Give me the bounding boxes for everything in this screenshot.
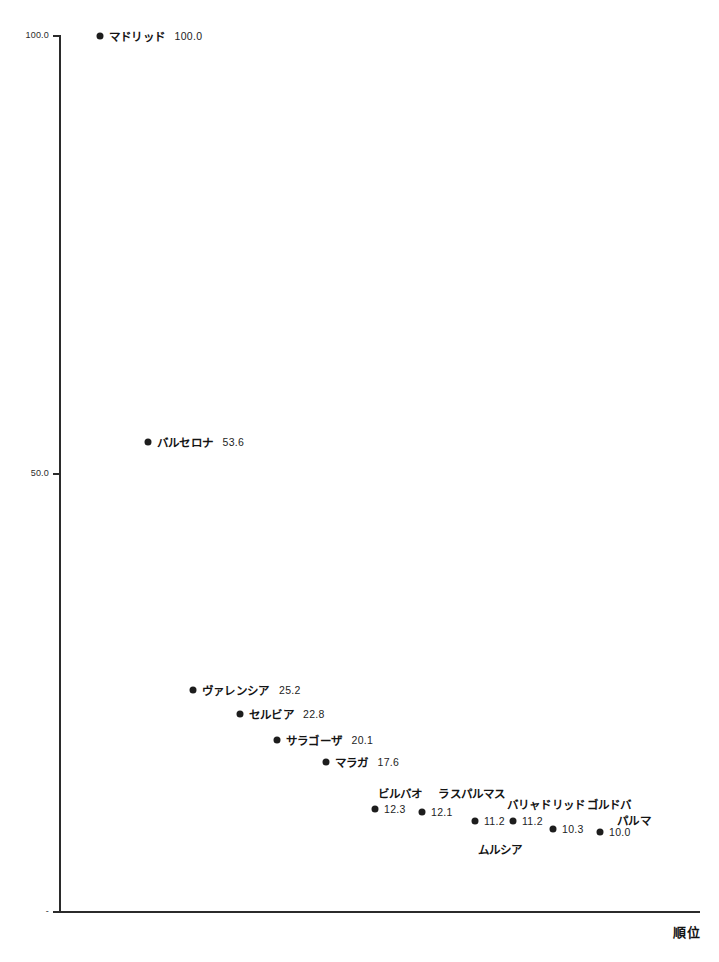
data-point-value: 100.0 [175,30,203,42]
data-point-label: セルビア [249,706,294,722]
data-point [323,759,330,766]
x-axis-title: 順位 [673,922,701,941]
data-point [472,818,479,825]
y-tick-mark [53,911,59,913]
data-point-label: ムルシア [478,841,523,857]
data-point-value: 12.1 [431,806,453,818]
x-axis-line [59,911,700,913]
data-point-value: 11.2 [484,815,505,827]
data-point-label: サラゴーザ [286,732,342,748]
data-point-value: 10.3 [562,823,584,835]
data-point-value: 10.0 [609,826,631,838]
data-point-label: ヴァレンシア [202,682,269,698]
data-point-value: 12.3 [384,803,406,815]
data-point-label: ビルバオ [378,785,423,801]
data-point [419,809,426,816]
data-point-label: ラスパルマス [438,785,505,801]
data-point [145,439,152,446]
data-point-value: 53.6 [223,436,245,448]
data-point-value: 20.1 [352,734,374,746]
y-tick-label: - [5,906,49,916]
data-point-value: 25.2 [279,684,301,696]
y-axis-line [59,35,61,913]
y-tick-mark [53,35,59,37]
data-point [190,687,197,694]
data-point-label: マラガ [335,754,369,770]
data-point-label: バルセロナ [157,434,213,450]
data-point [597,829,604,836]
data-point [274,737,281,744]
data-point [97,33,104,40]
data-point-value: 17.6 [378,756,400,768]
data-point-label: マドリッド [109,28,165,44]
data-point-label: ゴルドバ [587,796,632,812]
data-point-label: バリャドリッド [507,796,585,812]
scatter-chart: 100.050.0- マドリッド100.0バルセロナ53.6ヴァレンシア25.2… [0,0,719,962]
y-tick-label: 100.0 [5,30,49,40]
data-point-value: 22.8 [303,708,325,720]
data-point [510,818,517,825]
data-point [372,806,379,813]
y-tick-label: 50.0 [5,468,49,478]
data-point-value: 11.2 [522,815,543,827]
y-tick-mark [53,473,59,475]
data-point [550,826,557,833]
data-point [237,711,244,718]
